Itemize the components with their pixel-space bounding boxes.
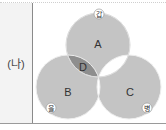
svg-text:갑: 갑 (96, 11, 103, 18)
svg-text:병: 병 (144, 104, 150, 112)
svg-text:을: 을 (48, 105, 55, 112)
marker-byeong: 병 (142, 103, 152, 113)
row-label: (나) (7, 55, 24, 71)
marker-gap: 갑 (94, 9, 104, 19)
label-a: A (94, 38, 102, 50)
venn-diagram: A D B C 갑 을 병 (34, 3, 166, 124)
label-d: D (79, 61, 87, 73)
marker-eul: 을 (46, 103, 56, 113)
label-b: B (64, 86, 71, 98)
label-c: C (126, 86, 134, 98)
row-header-cell: (나) (0, 3, 33, 123)
table-row: (나) (0, 2, 166, 124)
